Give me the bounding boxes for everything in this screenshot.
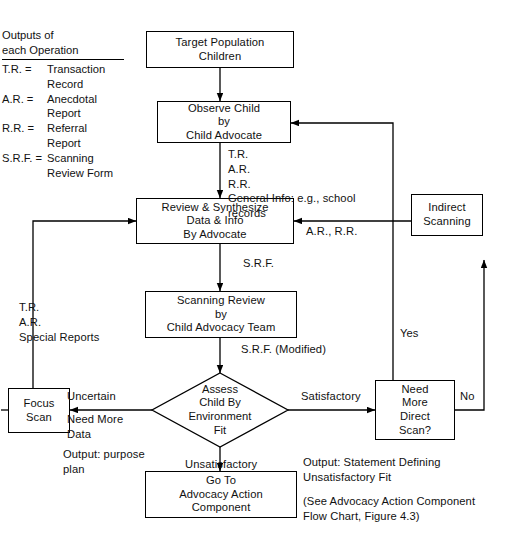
legend-row: A.R. = Anecdotal Report <box>2 92 113 122</box>
node-go-to-advocacy[interactable]: Go To Advocacy Action Component <box>145 471 297 518</box>
node-need-more-direct-scan[interactable]: Need More Direct Scan? <box>375 380 455 440</box>
edge-label-no: No <box>460 389 475 404</box>
edge-no-to-indirect <box>455 260 484 410</box>
legend-value: Transaction Record <box>47 62 113 92</box>
annotation-output-statement: Output: Statement Defining Unsatisfactor… <box>303 455 441 485</box>
legend-key: R.R. = <box>2 121 47 151</box>
edge-label-srf-modified: S.R.F. (Modified) <box>241 342 326 357</box>
node-target-population[interactable]: Target Population Children <box>146 31 294 68</box>
edge-label-srf: S.R.F. <box>243 256 274 271</box>
edge-label-observe-outputs: T.R. A.R. R.R. General Info: e.g., schoo… <box>228 147 356 221</box>
legend-row: T.R. = Transaction Record <box>2 62 113 92</box>
node-observe-child[interactable]: Observe Child by Child Advocate <box>157 101 291 143</box>
edge-label-need-more-data: Need More Data <box>67 412 123 442</box>
node-scanning-review[interactable]: Scanning Review by Child Advocacy Team <box>145 291 297 338</box>
legend-key: S.R.F. = <box>2 151 47 181</box>
legend-key: A.R. = <box>2 92 47 122</box>
legend-row: R.R. = Referral Report <box>2 121 113 151</box>
legend-value: Anecdotal Report <box>47 92 113 122</box>
legend-value: Scanning Review Form <box>47 151 113 181</box>
node-assess-fit-label: Assess Child By Environment Fit <box>160 376 280 444</box>
node-indirect-scanning[interactable]: Indirect Scanning <box>411 194 483 236</box>
legend: Outputs of each Operation T.R. = Transac… <box>2 28 124 181</box>
legend-divider <box>2 59 124 60</box>
annotation-see-reference: (See Advocacy Action Component Flow Char… <box>303 494 475 524</box>
legend-value: Referral Report <box>47 121 113 151</box>
edge-label-yes: Yes <box>400 326 419 341</box>
edge-label-uncertain: Uncertain <box>67 389 116 404</box>
legend-key: T.R. = <box>2 62 47 92</box>
flowchart-page: Outputs of each Operation T.R. = Transac… <box>0 0 515 540</box>
edge-label-satisfactory: Satisfactory <box>301 389 361 404</box>
edge-label-output-purpose-plan: Output: purpose plan <box>63 447 145 477</box>
legend-row: S.R.F. = Scanning Review Form <box>2 151 113 181</box>
legend-heading: Outputs of each Operation <box>2 28 124 58</box>
legend-table: T.R. = Transaction Record A.R. = Anecdot… <box>2 62 113 181</box>
edge-label-unsatisfactory: Unsatisfactory <box>185 457 257 472</box>
edge-label-focus-outputs: T.R. A.R. Special Reports <box>19 300 99 344</box>
edge-label-ar-rr: A.R., R.R. <box>306 224 357 239</box>
node-focus-scan[interactable]: Focus Scan <box>8 388 70 433</box>
